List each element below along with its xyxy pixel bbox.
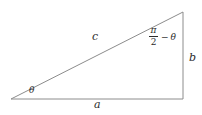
apex-theta-symbol: θ <box>171 32 176 42</box>
fraction-denominator: 2 <box>150 37 158 47</box>
base-angle-theta-label: θ <box>29 86 34 95</box>
triangle-shape <box>0 0 202 115</box>
apex-angle-expression: π 2 − θ <box>149 26 176 47</box>
fraction-numerator: π <box>150 26 158 36</box>
vertical-side-label: b <box>189 52 196 63</box>
right-triangle-figure: c a b θ π 2 − θ <box>0 0 202 115</box>
minus-operator: − <box>161 32 169 42</box>
pi-over-two-fraction: π 2 <box>149 26 158 47</box>
base-label: a <box>94 99 101 110</box>
hypotenuse-label: c <box>92 31 98 42</box>
